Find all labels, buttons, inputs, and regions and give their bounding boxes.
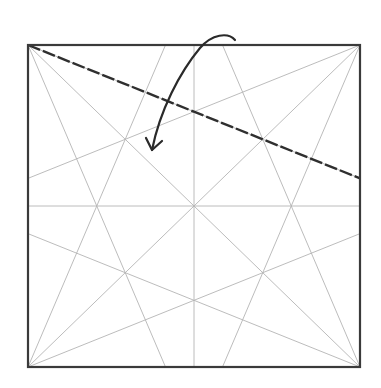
fold-arrow-curve (152, 35, 235, 150)
crease-lines (28, 45, 360, 367)
fold-arrow (146, 35, 235, 150)
origami-diagram (0, 0, 381, 388)
